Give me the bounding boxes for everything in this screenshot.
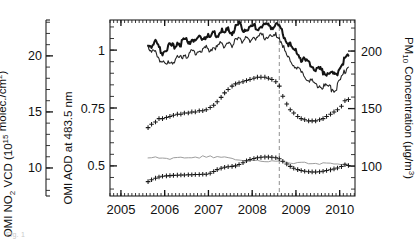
data-point [193,172,198,177]
x-tick-label-2005: 2005 [106,202,135,217]
data-point [277,84,282,89]
data-point [274,79,279,84]
data-point [226,87,231,92]
figure-container: 2005200620072008200920100.50.751OMI AOD … [0,0,415,244]
data-point [291,111,296,116]
data-point [160,174,165,179]
data-point [313,119,318,124]
data-point [277,156,282,161]
aod-tick-label-1: 1 [98,44,105,58]
series-line-3 [148,156,348,165]
no2-tick-label-10: 10 [28,161,42,175]
data-point [149,122,154,127]
data-point [171,173,176,178]
data-point [153,120,158,125]
data-point [274,155,279,160]
x-tick-label-2010: 2010 [325,202,354,217]
data-point [182,173,187,178]
pm10-tick-label-150: 150 [361,102,382,116]
data-point [259,155,264,160]
data-point [222,91,227,96]
no2-tick-label-15: 15 [28,105,42,119]
data-point [328,168,333,173]
data-point [284,102,289,107]
x-tick-label-2009: 2009 [281,202,310,217]
data-point [226,165,231,170]
no2-tick-label-20: 20 [28,49,42,63]
x-tick-label-2007: 2007 [194,202,223,217]
data-point [339,104,344,109]
multi-axis-timeseries-chart: 2005200620072008200920100.50.751OMI AOD … [0,0,415,244]
data-point [146,125,151,130]
series-line-1 [148,32,348,92]
no2-axis-title: OMI NO2 VCD (1015 molec./cm2) [0,70,17,237]
data-point [193,110,198,115]
series-markers-4 [146,155,351,184]
data-point [281,159,286,164]
data-point [230,84,235,89]
figure-caption: Fig. 1 [6,231,25,238]
data-point [321,169,326,174]
data-point [335,166,340,171]
data-point [259,75,264,80]
pm10-tick-label-200: 200 [361,45,382,59]
data-point [299,168,304,173]
data-point [295,114,300,119]
data-point [219,166,224,171]
data-point [324,114,329,119]
series-markers-2 [146,75,351,130]
data-point [288,107,293,112]
series-line-0 [148,21,348,75]
aod-tick-label-0.75: 0.75 [81,102,105,116]
data-point [324,168,329,173]
data-point [204,172,209,177]
pm10-tick-label-100: 100 [361,160,382,174]
data-point [160,116,165,121]
data-point [295,167,300,172]
data-point [328,112,333,117]
data-point [208,105,213,110]
data-point [281,94,286,99]
x-tick-label-2008: 2008 [238,202,267,217]
data-point [332,110,337,115]
data-point [302,169,307,174]
pm10-axis-title: PM10 Concentration (µg/m3) [401,37,415,179]
data-point [215,100,220,105]
aod-axis-title: OMI AOD at 483.5 nm [62,91,74,204]
data-point [270,155,275,160]
data-point [211,103,216,108]
x-tick-label-2006: 2006 [150,202,179,217]
data-point [332,167,337,172]
data-point [219,95,224,100]
aod-tick-label-0.5: 0.5 [88,159,105,173]
data-point [335,107,340,112]
data-point [313,170,318,175]
